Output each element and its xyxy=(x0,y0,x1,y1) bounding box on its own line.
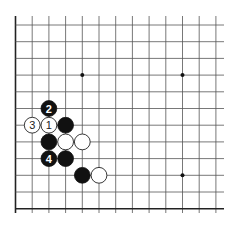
star-point xyxy=(181,73,185,77)
star-point xyxy=(80,73,84,77)
white-stone xyxy=(58,134,74,150)
black-stone-disc xyxy=(74,167,90,183)
move-number: 3 xyxy=(29,119,35,131)
white-stone-disc xyxy=(91,167,107,183)
go-board: 2314 xyxy=(0,0,237,228)
white-stone: 3 xyxy=(24,117,40,133)
black-stone xyxy=(58,151,74,167)
black-stone: 4 xyxy=(41,151,57,167)
black-stone: 2 xyxy=(41,101,57,117)
white-stone xyxy=(74,134,90,150)
white-stone: 1 xyxy=(41,117,57,133)
black-stone-disc xyxy=(58,117,74,133)
white-stone xyxy=(91,167,107,183)
black-stone xyxy=(74,167,90,183)
black-stone-disc xyxy=(41,134,57,150)
star-point xyxy=(181,173,185,177)
move-number: 2 xyxy=(46,103,52,115)
black-stone-disc xyxy=(58,151,74,167)
white-stone-disc xyxy=(74,134,90,150)
black-stone xyxy=(58,117,74,133)
move-number: 4 xyxy=(46,153,53,165)
white-stone-disc xyxy=(58,134,74,150)
move-number: 1 xyxy=(46,119,52,131)
black-stone xyxy=(41,134,57,150)
